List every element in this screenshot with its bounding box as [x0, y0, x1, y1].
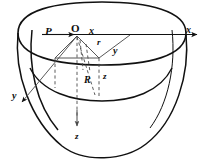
interior-section-arc	[30, 68, 172, 101]
label-radius-capital-r: R	[84, 75, 91, 85]
label-axis-y-arrow: y	[12, 91, 16, 101]
figure-container: P O x x r y y R z z	[0, 0, 204, 163]
dashed-depth-lines	[55, 37, 99, 118]
label-coord-z-mid: z	[103, 72, 107, 81]
label-axis-z-arrow: z	[75, 132, 79, 141]
label-origin-o: O	[71, 23, 80, 34]
radial-construction-lines	[55, 35, 130, 58]
rim-far-arc	[18, 2, 186, 33]
construction-line-left	[55, 36, 77, 58]
label-point-p: P	[45, 26, 52, 37]
bowl-outline	[17, 30, 186, 158]
bowl-body-outline	[17, 33, 186, 158]
label-axis-x-origin: x	[89, 26, 94, 36]
label-axis-x-arrow: x	[186, 25, 191, 35]
rim-near-arc	[18, 33, 186, 65]
label-coord-y-radial: y	[113, 46, 117, 56]
bowl-inner-left-wall	[31, 30, 58, 130]
bowl-inner-right-wall	[150, 30, 173, 128]
diagram-canvas	[0, 0, 204, 163]
label-radius-r: r	[97, 38, 101, 47]
